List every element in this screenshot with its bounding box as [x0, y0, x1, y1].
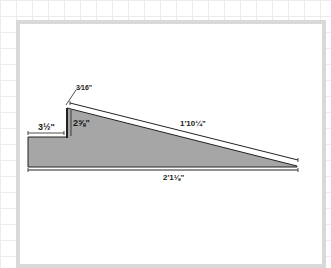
top-thickness-label: 3⁄16": [76, 84, 92, 91]
step-height-label: 2⅝": [73, 118, 90, 128]
slope-length-label: 1'10¼": [180, 119, 206, 128]
total-length-label: 2'1⅛": [163, 173, 184, 182]
ramp-body: [28, 108, 297, 167]
step-width-label: 3½": [38, 122, 55, 132]
